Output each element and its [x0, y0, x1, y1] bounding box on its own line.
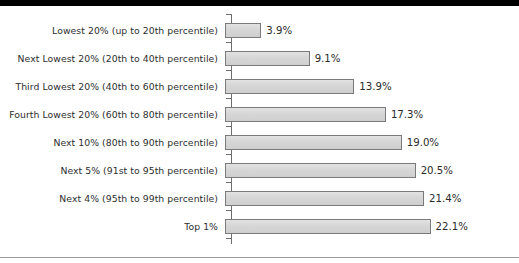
axis-tick [226, 98, 231, 99]
bar-track: 21.4% [225, 184, 519, 212]
bar-value-label: 22.1% [436, 221, 468, 232]
axis-tick [226, 42, 231, 43]
bar [225, 135, 402, 150]
bar-value-label: 19.0% [407, 137, 439, 148]
bar-category-label: Next 4% (95th to 99th percentile) [0, 193, 225, 204]
bar [225, 23, 261, 38]
axis-tick [226, 126, 231, 127]
bar [225, 107, 386, 122]
bar-track: 17.3% [225, 100, 519, 128]
bar-category-label: Next 5% (91st to 95th percentile) [0, 165, 225, 176]
bar-track: 20.5% [225, 156, 519, 184]
bar-row: Next Lowest 20% (20th to 40th percentile… [0, 44, 519, 72]
bar [225, 163, 416, 178]
axis-tick [226, 154, 231, 155]
bar-track: 3.9% [225, 16, 519, 44]
bar-category-label: Third Lowest 20% (40th to 60th percentil… [0, 81, 225, 92]
bar-category-label: Top 1% [0, 221, 225, 232]
bar-category-label: Next Lowest 20% (20th to 40th percentile… [0, 53, 225, 64]
bar-row: Fourth Lowest 20% (60th to 80th percenti… [0, 100, 519, 128]
bar-category-label: Lowest 20% (up to 20th percentile) [0, 25, 225, 36]
axis-tick [226, 238, 231, 239]
bar-value-label: 3.9% [266, 25, 292, 36]
bar-row: Next 10% (80th to 90th percentile)19.0% [0, 128, 519, 156]
bar-value-label: 20.5% [421, 165, 453, 176]
bar [225, 51, 310, 66]
bar-row: Next 5% (91st to 95th percentile)20.5% [0, 156, 519, 184]
bar-row: Next 4% (95th to 99th percentile)21.4% [0, 184, 519, 212]
bottom-divider-rule [0, 257, 519, 258]
bar [225, 219, 431, 234]
bar-row: Lowest 20% (up to 20th percentile)3.9% [0, 16, 519, 44]
bar-value-label: 9.1% [315, 53, 341, 64]
bar-track: 13.9% [225, 72, 519, 100]
bar-value-label: 21.4% [429, 193, 461, 204]
bar-value-label: 13.9% [359, 81, 391, 92]
bar-track: 9.1% [225, 44, 519, 72]
bar-category-label: Fourth Lowest 20% (60th to 80th percenti… [0, 109, 225, 120]
bar-row: Third Lowest 20% (40th to 60th percentil… [0, 72, 519, 100]
axis-tick [226, 182, 231, 183]
bar-category-label: Next 10% (80th to 90th percentile) [0, 137, 225, 148]
bar [225, 191, 424, 206]
bar-value-label: 17.3% [391, 109, 423, 120]
bar [225, 79, 354, 94]
bar-track: 22.1% [225, 212, 519, 240]
axis-tick [226, 70, 231, 71]
bar-row: Top 1%22.1% [0, 212, 519, 240]
axis-tick [226, 210, 231, 211]
horizontal-bar-chart: Lowest 20% (up to 20th percentile)3.9%Ne… [0, 6, 519, 254]
axis-tick [226, 14, 231, 15]
bar-track: 19.0% [225, 128, 519, 156]
bar-rows-container: Lowest 20% (up to 20th percentile)3.9%Ne… [0, 6, 519, 254]
